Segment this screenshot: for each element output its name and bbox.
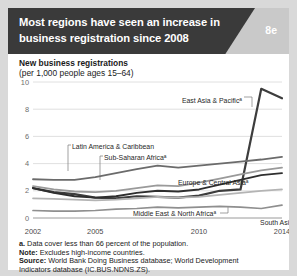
y-tick-label: 6 [25,132,29,141]
x-axis-ticks: 2002200520102014 [25,227,289,236]
leader-line [68,145,71,171]
source-line-2: Indicators database (IC.BUS.NDNS.ZS). [19,266,281,275]
note-text: Excludes high-income countries. [38,248,145,257]
leader-line [244,97,252,107]
series-label: Middle East & North Africaa [133,210,216,217]
y-tick-label: 2 [25,186,29,195]
line-chart: 0246810 2002200520102014 East Asia & Pac… [8,8,289,270]
data-series [33,89,282,211]
series-label: Europe & Central Asiaa [178,179,249,187]
x-tick-label: 2010 [191,227,207,236]
x-tick-label: 2014 [274,227,289,236]
y-axis-ticks: 0246810 [21,78,29,223]
y-tick-label: 0 [25,214,29,223]
figure-notes: a. Data cover less than 66 percent of th… [19,240,281,275]
source-text: World Bank Doing Business database; Worl… [46,256,238,265]
figure-card: Most regions have seen an increase in bu… [8,8,289,270]
chart-svg: 0246810 2002200520102014 East Asia & Pac… [8,8,289,270]
note-label: Note: [19,248,38,257]
y-tick-label: 4 [25,159,29,168]
series-label: East Asia & Pacifica [182,97,242,104]
y-tick-label: 10 [21,78,29,87]
series-label: Latin America & Caribbean [72,143,154,150]
source-label: Source: [19,256,46,265]
footnote-a-text: Data cover less than 66 percent of the p… [25,239,188,248]
series-label: Sub-Saharan Africaa [104,154,167,161]
y-tick-label: 8 [25,105,29,114]
x-tick-label: 2002 [25,227,41,236]
screenshot-root: Most regions have seen an increase in bu… [0,0,297,276]
x-tick-label: 2005 [87,227,103,236]
series-label: South Asia [260,219,289,226]
